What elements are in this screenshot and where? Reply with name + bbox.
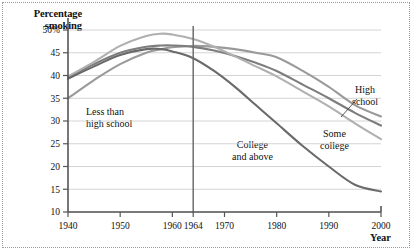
smoking-by-education-chart: Percentage smoking Year Less than high s…: [0, 0, 412, 250]
svg-text:1990: 1990: [319, 221, 338, 231]
svg-text:2000: 2000: [372, 221, 391, 231]
svg-text:20: 20: [51, 162, 61, 172]
svg-text:45: 45: [51, 48, 61, 58]
series-line-college-and-above: [68, 49, 381, 192]
svg-text:1964: 1964: [184, 221, 203, 231]
svg-text:25: 25: [51, 139, 61, 149]
svg-text:10: 10: [51, 207, 61, 217]
svg-text:50%: 50%: [43, 25, 61, 35]
series-line-some-college: [68, 34, 381, 140]
axis-ticks: 101520253035404550%194019501960196419701…: [43, 25, 391, 231]
svg-text:1940: 1940: [59, 221, 78, 231]
svg-text:1970: 1970: [215, 221, 234, 231]
svg-text:1960: 1960: [163, 221, 182, 231]
series-lines: [68, 34, 381, 192]
svg-text:40: 40: [51, 71, 61, 81]
svg-text:30: 30: [51, 116, 61, 126]
svg-text:35: 35: [51, 94, 61, 104]
svg-text:1950: 1950: [111, 221, 130, 231]
plot-area: 101520253035404550%194019501960196419701…: [0, 0, 412, 250]
svg-text:1980: 1980: [267, 221, 286, 231]
svg-text:15: 15: [51, 185, 61, 195]
